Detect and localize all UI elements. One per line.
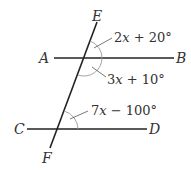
arc-angle-bottom-upper — [64, 111, 78, 129]
arc-angle-top-upper — [90, 41, 102, 58]
leader-bottom — [70, 111, 88, 119]
angle-expr-bottom: 7x − 100° — [91, 103, 157, 118]
point-label-f: F — [41, 150, 53, 166]
angle-expr-top-lower: 3x + 10° — [107, 72, 165, 87]
arc-angle-top-lower — [78, 58, 102, 76]
point-label-c: C — [14, 121, 25, 137]
point-label-d: D — [148, 121, 160, 137]
leader-top-upper — [94, 38, 112, 48]
point-label-a: A — [37, 50, 49, 66]
geometry-diagram: E A B C D F 2x + 20° 3x + 10° 7x − 100° — [0, 0, 191, 170]
angle-expr-top-upper: 2x + 20° — [114, 30, 172, 45]
point-label-e: E — [91, 8, 102, 24]
point-label-b: B — [175, 50, 186, 66]
